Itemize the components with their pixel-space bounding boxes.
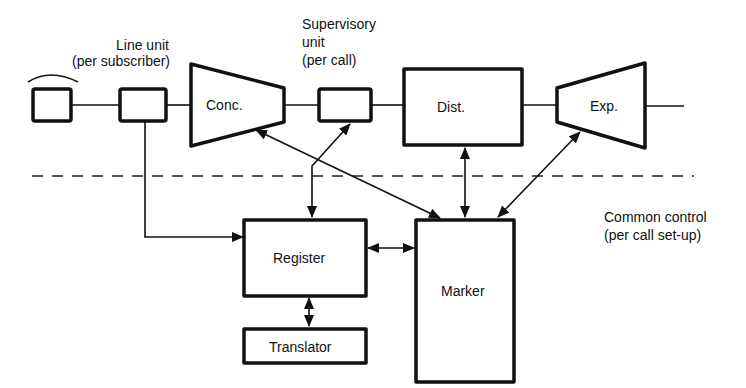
- line-unit-label: Line unit: [116, 37, 169, 53]
- expander-label: Exp.: [590, 98, 618, 114]
- switching-system-diagram: Conc. Dist. Exp. Line unit (per subscrib…: [0, 0, 746, 388]
- common-control-label: Common control: [604, 209, 707, 225]
- common-control-sublabel: (per call set-up): [604, 227, 701, 243]
- line-unit-sublabel: (per subscriber): [72, 53, 170, 69]
- distributor-label: Dist.: [437, 99, 465, 115]
- arrow-supervisory-register: [312, 124, 350, 217]
- marker-label: Marker: [441, 283, 485, 299]
- supervisory-label: Supervisory: [302, 16, 376, 32]
- telephone-icon: [33, 89, 71, 121]
- supervisory-sublabel: (per call): [302, 52, 356, 68]
- concentrator-label: Conc.: [206, 97, 243, 113]
- supervisory-unit-box: [319, 89, 371, 121]
- line-unit-box: [120, 89, 166, 121]
- register-label: Register: [273, 250, 325, 266]
- translator-label: Translator: [269, 339, 332, 355]
- supervisory-unit-label: unit: [302, 34, 325, 50]
- handset-icon: [28, 75, 78, 82]
- marker-block: [416, 220, 514, 382]
